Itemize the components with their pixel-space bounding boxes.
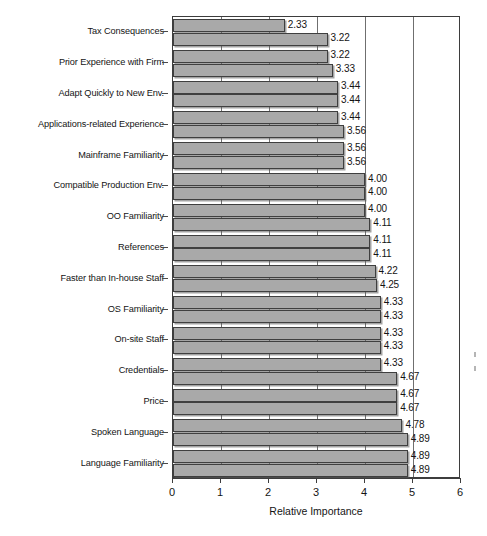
category-label: Language Familiarity bbox=[81, 458, 164, 468]
bar bbox=[173, 187, 365, 200]
x-tick-label: 4 bbox=[352, 486, 376, 498]
bar-value-label: 4.67 bbox=[400, 372, 419, 382]
category-label: On-site Staff bbox=[114, 334, 164, 344]
bar-value-label: 4.67 bbox=[400, 403, 419, 413]
bar-value-label: 4.00 bbox=[368, 187, 387, 197]
category-tick bbox=[162, 278, 168, 279]
category-label: OO Familiarity bbox=[107, 211, 164, 221]
category-tick bbox=[162, 309, 168, 310]
bar-value-label: 3.44 bbox=[341, 81, 360, 91]
bar-value-label: 4.89 bbox=[411, 434, 430, 444]
bar-value-label: 4.33 bbox=[384, 341, 403, 351]
x-tick-label: 5 bbox=[400, 486, 424, 498]
bar bbox=[173, 204, 365, 217]
bar bbox=[173, 402, 397, 415]
bar-value-label: 4.33 bbox=[384, 311, 403, 321]
bar bbox=[173, 81, 338, 94]
category-tick bbox=[162, 62, 168, 63]
bar bbox=[173, 94, 338, 107]
x-tick-label: 2 bbox=[256, 486, 280, 498]
x-tick-label: 3 bbox=[304, 486, 328, 498]
bar-value-label: 4.22 bbox=[379, 266, 398, 276]
bar-value-label: 4.89 bbox=[411, 451, 430, 461]
bar bbox=[173, 125, 344, 138]
bar bbox=[173, 265, 376, 278]
category-tick bbox=[162, 216, 168, 217]
bar-value-label: 3.22 bbox=[331, 33, 350, 43]
x-tick-label: 6 bbox=[448, 486, 472, 498]
category-label: Tax Consequences bbox=[87, 26, 164, 36]
bar-value-label: 4.11 bbox=[373, 235, 391, 245]
category-label: Mainframe Familiarity bbox=[78, 150, 164, 160]
category-label: Adapt Quickly to New Env. bbox=[58, 88, 164, 98]
bar-value-label: 3.33 bbox=[336, 64, 355, 74]
x-tick-4 bbox=[364, 478, 365, 483]
bar-value-label: 4.00 bbox=[368, 174, 387, 184]
category-label: Applications-related Experience bbox=[38, 119, 164, 129]
category-tick bbox=[162, 31, 168, 32]
bar bbox=[173, 433, 408, 446]
x-tick-label: 0 bbox=[160, 486, 184, 498]
bar bbox=[173, 450, 408, 463]
bar bbox=[173, 50, 328, 63]
bar-value-label: 4.78 bbox=[405, 420, 424, 430]
category-tick bbox=[162, 124, 168, 125]
bar-value-label: 3.56 bbox=[347, 143, 366, 153]
bar-value-label: 3.44 bbox=[341, 95, 360, 105]
scan-artifact-upper bbox=[474, 352, 476, 357]
bar-value-label: 4.25 bbox=[380, 280, 399, 290]
bar-value-label: 4.89 bbox=[411, 465, 430, 475]
bar bbox=[173, 218, 370, 231]
bar bbox=[173, 235, 370, 248]
bar-value-label: 4.33 bbox=[384, 297, 403, 307]
bar-value-label: 4.33 bbox=[384, 358, 403, 368]
category-tick bbox=[162, 247, 168, 248]
category-label: Faster than In-house Staff bbox=[61, 273, 164, 283]
bar bbox=[173, 33, 328, 46]
x-tick-3 bbox=[316, 478, 317, 483]
bar bbox=[173, 19, 285, 32]
bar-chart: Tax ConsequencesPrior Experience with Fi… bbox=[0, 0, 487, 536]
category-tick bbox=[162, 339, 168, 340]
bar bbox=[173, 419, 402, 432]
bar-value-label: 4.11 bbox=[373, 218, 391, 228]
bar bbox=[173, 327, 381, 340]
bar-value-label: 3.44 bbox=[341, 112, 360, 122]
bar bbox=[173, 279, 377, 292]
bar bbox=[173, 64, 333, 77]
x-tick-5 bbox=[412, 478, 413, 483]
bar bbox=[173, 111, 338, 124]
bar bbox=[173, 248, 370, 261]
bar-value-label: 3.56 bbox=[347, 126, 366, 136]
bar-value-label: 4.11 bbox=[373, 249, 391, 259]
category-label: OS Familiarity bbox=[108, 304, 164, 314]
category-label: References bbox=[118, 242, 164, 252]
bar bbox=[173, 358, 381, 371]
bar bbox=[173, 173, 365, 186]
bar-value-label: 4.00 bbox=[368, 204, 387, 214]
bar bbox=[173, 310, 381, 323]
category-label: Spoken Language bbox=[91, 427, 164, 437]
category-tick bbox=[162, 370, 168, 371]
category-label: Compatible Production Env. bbox=[53, 180, 164, 190]
category-tick bbox=[162, 432, 168, 433]
bar bbox=[173, 341, 381, 354]
category-label: Price bbox=[144, 396, 164, 406]
x-tick-1 bbox=[220, 478, 221, 483]
category-tick bbox=[162, 93, 168, 94]
bar-value-label: 3.22 bbox=[331, 50, 350, 60]
bar-value-label: 2.33 bbox=[288, 20, 307, 30]
bar bbox=[173, 142, 344, 155]
category-tick bbox=[162, 463, 168, 464]
bar bbox=[173, 389, 397, 402]
bar-value-label: 4.67 bbox=[400, 389, 419, 399]
category-label: Credentials bbox=[119, 365, 164, 375]
x-tick-2 bbox=[268, 478, 269, 483]
x-tick-6 bbox=[460, 478, 461, 483]
bar bbox=[173, 372, 397, 385]
x-axis-title: Relative Importance bbox=[172, 505, 460, 517]
category-tick bbox=[162, 155, 168, 156]
category-tick bbox=[162, 401, 168, 402]
bar-value-label: 3.56 bbox=[347, 157, 366, 167]
bar bbox=[173, 464, 408, 477]
